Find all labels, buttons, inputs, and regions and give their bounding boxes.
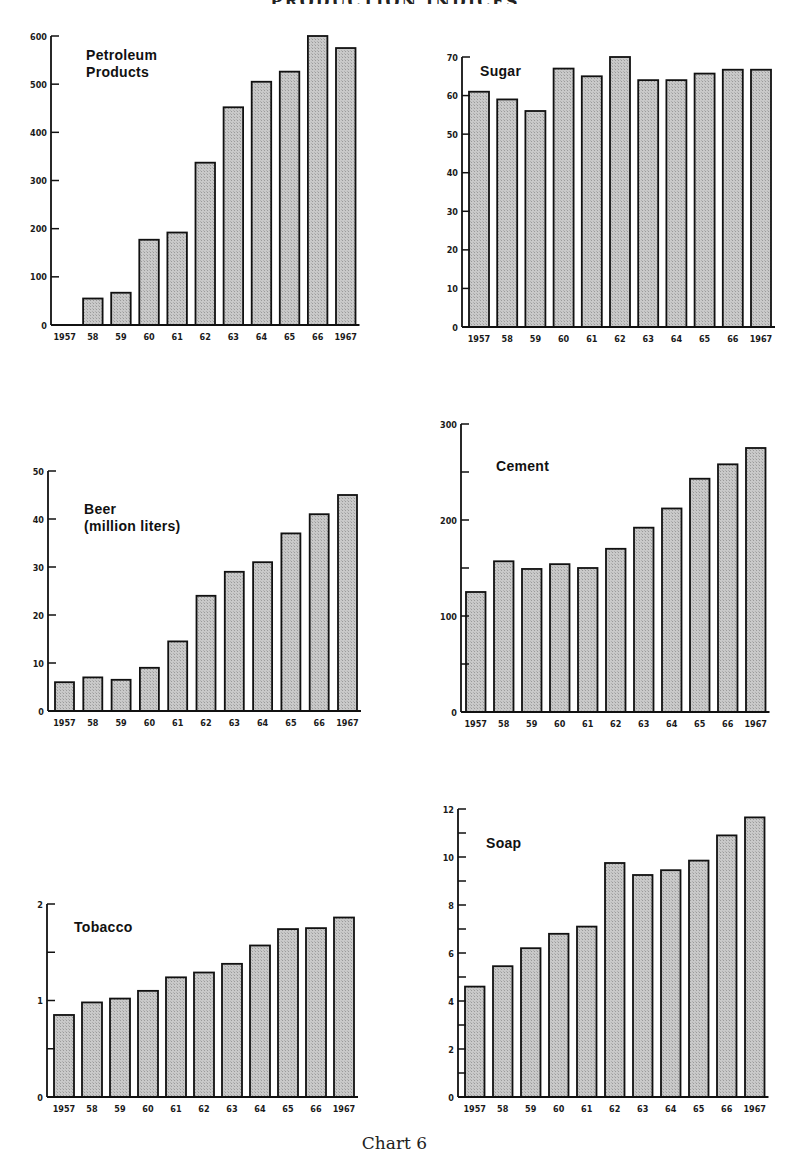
- x-tick-label: 65: [693, 1104, 705, 1114]
- bar-63: [633, 875, 653, 1097]
- y-tick-label: 10: [443, 853, 455, 863]
- x-tick-label: 1957: [463, 1104, 486, 1114]
- y-tick-label: 6: [448, 949, 454, 959]
- chart-title: Soap: [486, 835, 521, 852]
- bar-61: [577, 927, 597, 1097]
- x-tick-label: 58: [497, 1104, 509, 1114]
- y-tick-label: 2: [448, 1045, 454, 1055]
- x-tick-label: 64: [665, 1104, 677, 1114]
- x-tick-label: 60: [553, 1104, 565, 1114]
- x-tick-label: 61: [581, 1104, 593, 1114]
- bar-65: [689, 861, 709, 1097]
- y-tick-label: 8: [448, 901, 454, 911]
- y-tick-label: 12: [443, 805, 454, 815]
- y-tick-label: 4: [448, 997, 454, 1007]
- bar-62: [605, 863, 625, 1097]
- x-tick-label: 66: [721, 1104, 733, 1114]
- bar-60: [549, 934, 569, 1097]
- bar-64: [661, 870, 681, 1097]
- bar-chart-soap: 02468101219575859606162636465661967: [0, 0, 789, 1168]
- bar-1957: [465, 987, 485, 1097]
- bar-59: [521, 948, 541, 1097]
- y-tick-label: 0: [448, 1093, 454, 1103]
- x-tick-label: 63: [637, 1104, 648, 1114]
- figure-caption: Chart 6: [0, 1133, 789, 1153]
- bar-58: [493, 966, 513, 1097]
- x-tick-label: 62: [609, 1104, 620, 1114]
- x-tick-label: 1967: [743, 1104, 766, 1114]
- bar-1967: [745, 817, 765, 1097]
- bar-66: [717, 835, 737, 1097]
- x-tick-label: 59: [525, 1104, 537, 1114]
